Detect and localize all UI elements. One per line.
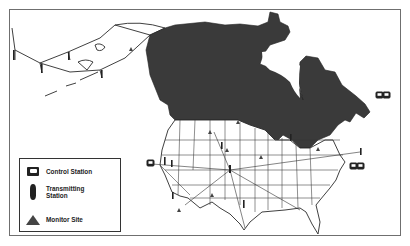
legend-label: Monitor Site: [46, 216, 83, 224]
control-station-icon: [27, 167, 39, 176]
legend-item-monitor-site: Monitor Site: [20, 215, 120, 225]
transmitting-station-icon: [30, 184, 36, 200]
alaska-region: [12, 23, 165, 96]
map-legend: Control Station Transmitting Station Mon…: [19, 158, 121, 232]
legend-label: Control Station: [46, 168, 92, 176]
legend-label: Transmitting Station: [46, 185, 88, 200]
legend-item-control-station: Control Station: [20, 167, 120, 176]
monitor-site-icon: [26, 215, 40, 225]
legend-item-transmitting-station: Transmitting Station: [20, 184, 120, 200]
